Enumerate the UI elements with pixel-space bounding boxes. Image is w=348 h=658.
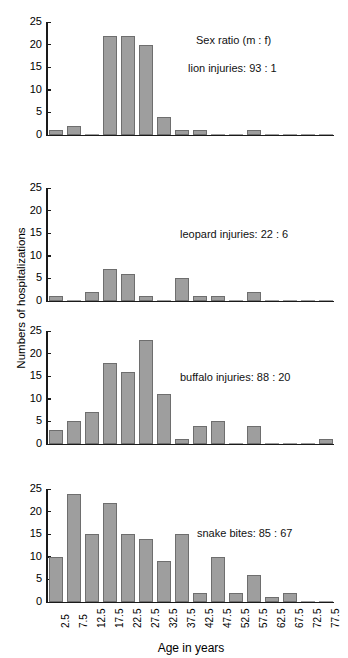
x-axis-line xyxy=(46,135,334,136)
x-tick-label: 32.5 xyxy=(168,609,179,628)
y-tick-label: 25 xyxy=(2,483,42,494)
bar xyxy=(229,134,244,135)
y-tick-label: 25 xyxy=(2,325,42,336)
x-tick-label: 2.5 xyxy=(60,614,71,628)
y-tick-label: 5 xyxy=(2,415,42,426)
sex-ratio-header: Sex ratio (m : f) xyxy=(196,34,271,46)
bar xyxy=(139,296,154,301)
y-tick-label: 0 xyxy=(2,295,42,306)
bar xyxy=(121,274,136,301)
bar xyxy=(211,134,226,135)
x-tick-label: 42.5 xyxy=(204,609,215,628)
bar xyxy=(211,296,226,301)
bar xyxy=(265,134,280,135)
bar xyxy=(157,117,172,135)
bar xyxy=(175,130,190,135)
bar xyxy=(85,292,100,301)
bar xyxy=(283,300,298,301)
bar xyxy=(139,45,154,135)
bar xyxy=(103,503,118,602)
bar xyxy=(265,300,280,301)
annotation-buffalo: buffalo injuries: 88 : 20 xyxy=(180,371,290,383)
bar-series-lion xyxy=(47,22,335,135)
y-tick-label: 15 xyxy=(2,370,42,381)
histogram-figure: Numbers of hospitalizations 0510152025Se… xyxy=(0,0,348,658)
y-tick-label: 15 xyxy=(2,227,42,238)
bar xyxy=(283,443,298,444)
y-tick-label: 5 xyxy=(2,272,42,283)
x-tick-label: 72.5 xyxy=(312,609,323,628)
bar xyxy=(247,575,262,602)
bar-series-buffalo xyxy=(47,331,335,444)
bar-series-leopard xyxy=(47,188,335,301)
bar xyxy=(67,494,82,602)
bar xyxy=(49,430,64,444)
y-tick-label: 15 xyxy=(2,61,42,72)
y-tick-label: 20 xyxy=(2,506,42,517)
bar xyxy=(193,426,208,444)
y-tick-label: 10 xyxy=(2,393,42,404)
bar xyxy=(247,426,262,444)
bar xyxy=(175,534,190,602)
y-tick-label: 10 xyxy=(2,250,42,261)
bar xyxy=(49,296,64,301)
bar xyxy=(121,534,136,602)
annotation-snake: snake bites: 85 : 67 xyxy=(197,527,292,539)
x-axis-title: Age in years xyxy=(47,641,335,655)
y-tick-label: 0 xyxy=(2,129,42,140)
y-tick-label: 0 xyxy=(2,596,42,607)
y-tick-label: 25 xyxy=(2,182,42,193)
bar xyxy=(67,126,82,135)
y-tick-label: 10 xyxy=(2,84,42,95)
bar xyxy=(139,340,154,444)
x-tick-label: 67.5 xyxy=(294,609,305,628)
annotation-lion: lion injuries: 93 : 1 xyxy=(188,62,277,74)
bar xyxy=(103,269,118,301)
bar xyxy=(85,534,100,602)
bar xyxy=(175,439,190,444)
bar xyxy=(175,278,190,301)
bar xyxy=(157,394,172,444)
bar xyxy=(49,557,64,602)
bar xyxy=(103,36,118,135)
y-tick-label: 25 xyxy=(2,16,42,27)
bar xyxy=(211,421,226,444)
x-axis-tick-labels: 2.57.512.517.522.527.532.537.542.547.552… xyxy=(47,600,335,640)
x-axis-line xyxy=(46,444,334,445)
x-tick-label: 62.5 xyxy=(276,609,287,628)
bar xyxy=(301,134,316,135)
bar xyxy=(157,300,172,301)
x-axis-line xyxy=(46,301,334,302)
bar xyxy=(247,130,262,135)
bar xyxy=(229,443,244,444)
x-tick-label: 17.5 xyxy=(114,609,125,628)
y-tick-label: 20 xyxy=(2,39,42,50)
bar xyxy=(229,300,244,301)
bar xyxy=(67,421,82,444)
y-tick-label: 20 xyxy=(2,348,42,359)
x-tick-label: 7.5 xyxy=(78,614,89,628)
bar xyxy=(139,539,154,602)
annotation-leopard: leopard injuries: 22 : 6 xyxy=(180,228,288,240)
bar xyxy=(193,130,208,135)
bar xyxy=(319,439,334,444)
bar xyxy=(85,412,100,444)
x-tick-label: 27.5 xyxy=(150,609,161,628)
y-tick-label: 20 xyxy=(2,205,42,216)
bar xyxy=(247,292,262,301)
x-tick-label: 47.5 xyxy=(222,609,233,628)
bar xyxy=(301,300,316,301)
bar xyxy=(265,443,280,444)
x-tick-label: 37.5 xyxy=(186,609,197,628)
bar xyxy=(121,36,136,135)
x-tick-label: 57.5 xyxy=(258,609,269,628)
bar xyxy=(301,443,316,444)
bar xyxy=(319,300,334,301)
bar-series-snake xyxy=(47,489,335,602)
bar xyxy=(157,561,172,602)
bar xyxy=(67,300,82,301)
x-tick-label: 22.5 xyxy=(132,609,143,628)
bar xyxy=(319,134,334,135)
y-tick-label: 10 xyxy=(2,551,42,562)
bar xyxy=(49,130,64,135)
